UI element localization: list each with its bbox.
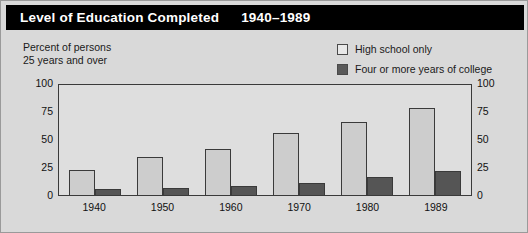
x-tick-label: 1940 (60, 201, 128, 213)
bar-group (61, 85, 129, 195)
chart-legend: High school only Four or more years of c… (337, 41, 492, 81)
y-tick-label-right: 100 (477, 78, 495, 89)
bar-high-school (273, 133, 299, 195)
bar-high-school (409, 108, 435, 195)
y-tick-label-right: 75 (477, 106, 489, 117)
axis-caption: Percent of persons 25 years and over (23, 41, 111, 67)
bar-group (129, 85, 197, 195)
legend-swatch-icon-high-school (337, 44, 348, 55)
legend-item-high-school: High school only (337, 41, 492, 57)
x-tick-label: 1960 (197, 201, 265, 213)
bar-group (333, 85, 401, 195)
y-tick-label-left: 25 (41, 162, 53, 173)
legend-label-college: Four or more years of college (355, 63, 492, 75)
bar-college (163, 188, 189, 195)
bar-college (435, 171, 461, 195)
bar-college (95, 189, 121, 195)
axis-caption-line-1: Percent of persons (23, 41, 111, 54)
bar-college (231, 186, 257, 195)
bar-college (299, 183, 325, 195)
x-tick-label: 1980 (333, 201, 401, 213)
y-tick-label-right: 0 (477, 190, 483, 201)
x-tick-label: 1950 (128, 201, 196, 213)
x-tick-label: 1989 (402, 201, 470, 213)
bar-group (401, 85, 469, 195)
bar-high-school (341, 122, 367, 195)
y-tick-label-left: 50 (41, 134, 53, 145)
legend-label-high-school: High school only (355, 43, 432, 55)
bars-container (59, 85, 471, 195)
y-tick-label-left: 0 (47, 190, 53, 201)
bar-group (265, 85, 333, 195)
y-tick-label-left: 100 (35, 78, 53, 89)
x-tick-label: 1970 (265, 201, 333, 213)
y-tick-label-left: 75 (41, 106, 53, 117)
bar-high-school (205, 149, 231, 195)
y-tick-label-right: 50 (477, 134, 489, 145)
bar-college (367, 177, 393, 195)
chart-figure: Level of Education Completed 1940–1989 P… (0, 0, 528, 233)
plot-wrapper: 0255075100 0255075100 194019501960197019… (58, 84, 472, 196)
legend-item-college: Four or more years of college (337, 61, 492, 77)
bar-high-school (69, 170, 95, 195)
y-tick-label-right: 25 (477, 162, 489, 173)
legend-swatch-icon-college (337, 64, 348, 75)
bar-high-school (137, 157, 163, 195)
plot-area (58, 84, 472, 196)
chart-title-bar: Level of Education Completed 1940–1989 (6, 5, 524, 30)
page-title: Level of Education Completed (20, 10, 219, 25)
axis-caption-line-2: 25 years and over (23, 54, 111, 67)
bar-group (197, 85, 265, 195)
title-year-range: 1940–1989 (241, 10, 310, 25)
